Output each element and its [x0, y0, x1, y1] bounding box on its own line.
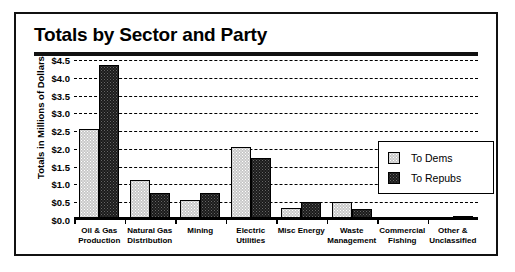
x-tick-mark [428, 220, 430, 224]
x-tick-mark [276, 220, 278, 224]
x-tick-mark [175, 220, 177, 224]
bar-group [226, 60, 277, 220]
plot-canvas [74, 60, 478, 220]
bar-group [327, 60, 378, 220]
bar-dems [231, 147, 251, 220]
bar-dems [130, 180, 150, 220]
bar-repubs [251, 158, 271, 220]
bar-group [175, 60, 226, 220]
x-tick-mark [327, 220, 329, 224]
bar-group [276, 60, 327, 220]
legend-label-repubs: To Repubs [411, 172, 461, 184]
y-tick-label: $4.0 [52, 73, 71, 82]
bar-repubs [99, 65, 119, 220]
bar-group [74, 60, 125, 220]
bar-group [377, 60, 428, 220]
y-tick-label: $2.0 [52, 144, 71, 153]
x-tick-mark [226, 220, 228, 224]
title-divider [34, 52, 478, 56]
bar-repubs [200, 193, 220, 220]
legend-swatch-dems-icon [388, 152, 400, 164]
y-axis-ticks: $4.5$4.0$3.5$3.0$2.5$2.0$1.5$1.0$0.5$0.0 [32, 60, 70, 220]
chart-frame: Totals by Sector and Party Totals in Mil… [14, 12, 498, 256]
y-tick-label: $1.0 [52, 180, 71, 189]
legend-item-dems: To Dems [388, 148, 493, 168]
bar-group [125, 60, 176, 220]
legend-swatch-repubs-icon [388, 172, 400, 184]
x-tick-mark [74, 220, 76, 224]
y-tick-label: $1.5 [52, 162, 71, 171]
x-tick-mark [377, 220, 379, 224]
bar-group [428, 60, 479, 220]
chart-title: Totals by Sector and Party [34, 24, 267, 46]
y-tick-label: $2.5 [52, 127, 71, 136]
y-tick-label: $3.0 [52, 109, 71, 118]
x-tick-mark [125, 220, 127, 224]
x-axis-labels: Oil & GasProductionNatural GasDistributi… [74, 226, 478, 256]
y-tick-label: $0.0 [52, 216, 71, 225]
y-tick-label: $0.5 [52, 198, 71, 207]
bar-series-container [74, 60, 478, 220]
bar-dems [79, 129, 99, 220]
legend-label-dems: To Dems [411, 152, 452, 164]
plot-area: Totals in Millions of Dollars $4.5$4.0$3… [16, 60, 496, 250]
bar-repubs [150, 193, 170, 220]
y-tick-label: $3.5 [52, 91, 71, 100]
x-axis-label: Other &Unclassified [422, 226, 485, 246]
y-tick-label: $4.5 [52, 56, 71, 65]
legend-item-repubs: To Repubs [388, 168, 493, 188]
chart-legend: To Dems To Repubs [378, 141, 494, 194]
